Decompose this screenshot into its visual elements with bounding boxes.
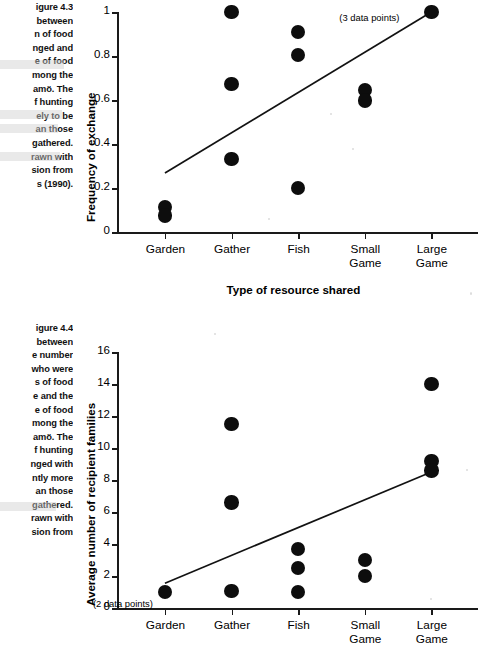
- data-point: [358, 569, 372, 583]
- data-point: [158, 208, 172, 222]
- data-point: [224, 417, 238, 431]
- data-point-annotation: (2 data points): [93, 598, 153, 609]
- data-point: [358, 553, 372, 567]
- data-point: [224, 77, 238, 91]
- scan-speck: [470, 292, 472, 295]
- data-point-annotation: (3 data points): [339, 12, 399, 23]
- scan-speck: [430, 598, 432, 600]
- scan-speck: [330, 113, 332, 115]
- data-point: [224, 152, 238, 166]
- figure-4-3: igure 4.3 between n of food nged and e o…: [0, 0, 500, 300]
- x-axis-label: Type of resource shared: [117, 283, 470, 296]
- figure-4-4: igure 4.4 between e number who were s of…: [0, 318, 500, 649]
- data-point: [358, 93, 372, 107]
- data-point: [424, 5, 438, 19]
- scan-speck: [268, 218, 270, 220]
- highlight-mark: [0, 60, 64, 69]
- highlight-mark: [0, 124, 58, 133]
- data-point: [224, 5, 238, 19]
- data-point: [424, 377, 438, 391]
- figure-page: igure 4.3 between n of food nged and e o…: [0, 0, 500, 649]
- highlight-mark: [0, 152, 60, 161]
- scan-speck: [352, 148, 354, 150]
- data-point: [424, 463, 438, 477]
- trendline: [0, 318, 500, 648]
- highlight-mark: [0, 110, 62, 119]
- trendline: [0, 0, 500, 272]
- data-point: [224, 584, 238, 598]
- data-point: [224, 495, 238, 509]
- scan-speck: [214, 333, 216, 335]
- highlight-mark: [0, 502, 56, 511]
- scan-speck: [466, 469, 468, 471]
